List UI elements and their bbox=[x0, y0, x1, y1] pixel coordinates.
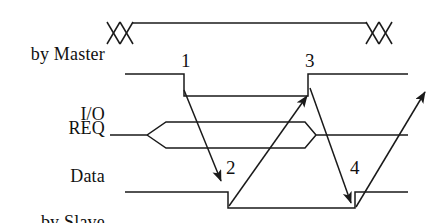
causality-arrow-4-to-next bbox=[356, 92, 425, 207]
waveform-ack bbox=[125, 192, 408, 208]
causality-arrow-1-to-2 bbox=[184, 90, 221, 181]
io-left-crosshatch bbox=[107, 22, 133, 44]
event-marker-4: 4 bbox=[350, 158, 360, 177]
event-marker-1: 1 bbox=[181, 51, 191, 70]
causality-arrow-2-to-3 bbox=[229, 96, 307, 206]
waveform-io bbox=[107, 22, 392, 44]
waveform-data bbox=[110, 122, 408, 148]
io-right-crosshatch bbox=[366, 22, 392, 44]
event-marker-2: 2 bbox=[226, 158, 236, 177]
event-marker-3: 3 bbox=[305, 51, 315, 70]
signal-label-ack-line1: by Slave bbox=[0, 212, 105, 223]
signal-label-io-line1: by Master bbox=[0, 44, 105, 64]
signal-label-ack: by Slave ACK bbox=[0, 172, 105, 223]
causality-arrow-3-to-4 bbox=[310, 88, 351, 203]
waveform-req bbox=[125, 74, 408, 96]
timing-diagram: by Master I/O REQ Data by Slave ACK 1 2 … bbox=[0, 0, 441, 223]
